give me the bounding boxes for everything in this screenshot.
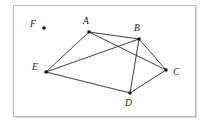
graph-vertex-b <box>137 37 141 41</box>
graph-vertex-e <box>44 70 48 74</box>
graph-edge-bd <box>130 39 139 93</box>
graph-vertex-d <box>128 91 132 95</box>
vertex-label-c: C <box>173 68 180 78</box>
vertex-label-f: F <box>30 20 36 30</box>
vertex-label-e: E <box>32 63 38 73</box>
graph-vertex-f <box>42 26 46 30</box>
figure-canvas: ABCDEF <box>0 0 209 124</box>
graph-edge-be <box>46 39 139 72</box>
graph-edge-ae <box>46 32 89 72</box>
vertices-layer <box>42 26 168 95</box>
vertex-label-a: A <box>83 17 89 27</box>
vertex-label-d: D <box>125 99 132 109</box>
graph-vertex-a <box>87 30 91 34</box>
graph-vertex-c <box>164 68 168 72</box>
graph-edge-bc <box>139 39 166 70</box>
graph-edge-cd <box>130 70 166 93</box>
vertex-label-b: B <box>134 24 140 34</box>
edges-layer <box>46 32 166 93</box>
graph-edge-de <box>46 72 130 93</box>
